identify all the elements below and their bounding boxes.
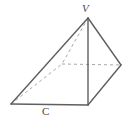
edge-apex-to-base-right xyxy=(88,18,121,65)
edge-base-left-to-back xyxy=(11,64,62,104)
edge-base-left-to-front xyxy=(11,104,88,105)
edge-base-front-to-right xyxy=(88,65,121,105)
solid-edges-group xyxy=(11,18,121,105)
pyramid-drawing xyxy=(0,0,126,123)
vertex-label-base-front: C xyxy=(42,106,49,117)
edge-base-back-to-right xyxy=(62,64,121,65)
edge-apex-to-base-back xyxy=(62,18,88,64)
pyramid-figure: V C xyxy=(0,0,126,123)
edge-apex-to-base-left xyxy=(11,18,88,104)
hidden-edges-group xyxy=(11,18,121,104)
vertex-label-apex: V xyxy=(82,3,89,14)
